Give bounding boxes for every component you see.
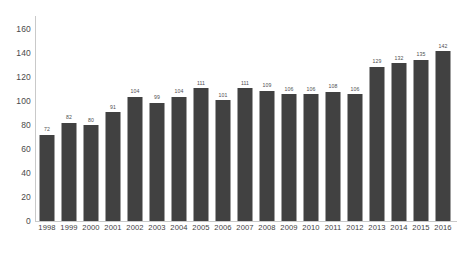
x-axis-tick-label: 2016: [434, 224, 451, 232]
bar-value-label: 109: [263, 83, 272, 88]
bar-slot: 142: [432, 18, 454, 221]
bar-value-label: 104: [131, 89, 140, 94]
x-axis-tick-label: 2005: [192, 224, 209, 232]
bar-value-label: 129: [373, 59, 382, 64]
bar[interactable]: [172, 97, 187, 221]
bar-chart: 020406080100120140160 728280911049910411…: [0, 0, 465, 261]
bar-slot: 111: [234, 18, 256, 221]
bar-value-label: 91: [110, 105, 116, 110]
bar[interactable]: [150, 103, 165, 221]
bar[interactable]: [216, 100, 231, 221]
bar-slot: 111: [190, 18, 212, 221]
y-axis-tick-label: 80: [3, 121, 31, 130]
bar-value-label: 106: [307, 87, 316, 92]
x-axis-tick-label: 2010: [302, 224, 319, 232]
bar-value-label: 106: [285, 87, 294, 92]
x-axis-tick-label: 2001: [104, 224, 121, 232]
bar-slot: 106: [344, 18, 366, 221]
bar-slot: 109: [256, 18, 278, 221]
y-axis-tick-labels: 020406080100120140160: [0, 0, 31, 261]
bar[interactable]: [392, 63, 407, 221]
x-axis-tick-label: 2013: [368, 224, 385, 232]
bar-value-label: 142: [439, 44, 448, 49]
y-axis-tick-label: 20: [3, 193, 31, 202]
bar-slot: 82: [58, 18, 80, 221]
bar-value-label: 101: [219, 93, 228, 98]
bar-value-label: 82: [66, 115, 72, 120]
x-axis-tick-labels: 1998199920002001200220032004200520062007…: [36, 224, 454, 240]
x-axis-tick-label: 2014: [390, 224, 407, 232]
bar-slot: 99: [146, 18, 168, 221]
bar[interactable]: [260, 91, 275, 221]
bar-slot: 132: [388, 18, 410, 221]
x-axis-tick-label: 2004: [170, 224, 187, 232]
bar[interactable]: [304, 94, 319, 221]
bar-slot: 129: [366, 18, 388, 221]
x-axis-tick-label: 2003: [148, 224, 165, 232]
bars-layer: 7282809110499104111101111109106106108106…: [36, 18, 454, 221]
bar-value-label: 108: [329, 84, 338, 89]
y-axis-tick-label: 160: [3, 25, 31, 34]
x-axis-tick-label: 2015: [412, 224, 429, 232]
bar[interactable]: [194, 88, 209, 221]
x-axis-tick-label: 2007: [236, 224, 253, 232]
bar-slot: 91: [102, 18, 124, 221]
y-axis-tick-label: 120: [3, 73, 31, 82]
bar-slot: 106: [278, 18, 300, 221]
bar-value-label: 80: [88, 118, 94, 123]
x-axis-tick-label: 2002: [126, 224, 143, 232]
bar-slot: 106: [300, 18, 322, 221]
bar[interactable]: [40, 135, 55, 221]
bar-slot: 72: [36, 18, 58, 221]
x-axis-tick-label: 1999: [60, 224, 77, 232]
bar-value-label: 72: [44, 127, 50, 132]
x-axis-tick-label: 2009: [280, 224, 297, 232]
bar-slot: 135: [410, 18, 432, 221]
bar-slot: 101: [212, 18, 234, 221]
bar-value-label: 104: [175, 89, 184, 94]
bar-value-label: 132: [395, 56, 404, 61]
bar[interactable]: [370, 67, 385, 221]
bar[interactable]: [282, 94, 297, 221]
bar-slot: 104: [168, 18, 190, 221]
bar[interactable]: [106, 112, 121, 221]
bar-value-label: 111: [241, 81, 249, 86]
x-axis-tick-label: 1998: [38, 224, 55, 232]
y-axis-tick-label: 40: [3, 169, 31, 178]
bar-value-label: 106: [351, 87, 360, 92]
bar-slot: 108: [322, 18, 344, 221]
x-axis-tick-label: 2011: [325, 224, 342, 232]
x-axis-line: [35, 221, 457, 222]
bar[interactable]: [238, 88, 253, 221]
y-axis-tick-label: 60: [3, 145, 31, 154]
bar[interactable]: [348, 94, 363, 221]
bar[interactable]: [128, 97, 143, 221]
y-axis-tick-label: 140: [3, 49, 31, 58]
x-axis-tick-label: 2012: [346, 224, 363, 232]
bar[interactable]: [84, 125, 99, 221]
x-axis-tick-label: 2006: [214, 224, 231, 232]
bar-value-label: 135: [417, 52, 426, 57]
bar[interactable]: [436, 51, 451, 221]
bar-slot: 80: [80, 18, 102, 221]
bar-value-label: 111: [197, 81, 205, 86]
y-axis-tick-label: 0: [3, 217, 31, 226]
bar-value-label: 99: [154, 95, 160, 100]
y-axis-tick-label: 100: [3, 97, 31, 106]
bar[interactable]: [414, 60, 429, 221]
bar[interactable]: [62, 123, 77, 221]
x-axis-tick-label: 2000: [82, 224, 99, 232]
bar-slot: 104: [124, 18, 146, 221]
x-axis-tick-label: 2008: [258, 224, 275, 232]
bar[interactable]: [326, 92, 341, 221]
